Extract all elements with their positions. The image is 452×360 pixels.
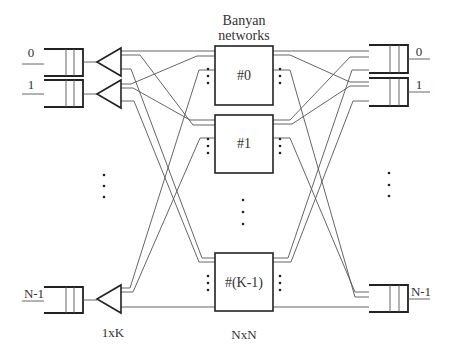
input-ellipsis xyxy=(103,174,106,199)
output-queue-n-1: N-1 xyxy=(369,284,431,312)
output-label-n-1: N-1 xyxy=(411,284,431,299)
network-label-k-1: #(K-1) xyxy=(225,275,263,291)
network-size-label: NxN xyxy=(231,327,257,342)
splitter-icon-0 xyxy=(97,48,121,76)
input-queue-n-1: N-1 xyxy=(22,286,97,313)
input-queue-1: 1 xyxy=(22,77,97,107)
title-line-2: networks xyxy=(218,28,269,43)
output-label-0: 0 xyxy=(416,44,423,59)
network-ellipsis xyxy=(242,199,245,226)
network-label-1: #1 xyxy=(237,136,251,151)
splitter-icon-1 xyxy=(97,80,121,108)
input-label-1: 1 xyxy=(28,77,35,92)
banyan-network-1: #1 xyxy=(207,115,282,173)
splitter-label: 1xK xyxy=(102,325,125,340)
banyan-network-k-1: #(K-1) xyxy=(207,253,282,311)
output-label-1: 1 xyxy=(416,77,423,92)
output-ellipsis xyxy=(388,172,391,198)
splitter-icon-n-1 xyxy=(97,285,121,313)
network-label-0: #0 xyxy=(237,68,251,83)
input-queue-0: 0 xyxy=(22,45,97,76)
title-line-1: Banyan xyxy=(223,13,266,28)
input-label-n-1: N-1 xyxy=(24,286,44,301)
banyan-network-0: #0 xyxy=(207,46,282,105)
output-queue-1: 1 xyxy=(369,77,430,106)
input-label-0: 0 xyxy=(28,45,35,60)
banyan-switch-diagram: Banyan networks 0 1 xyxy=(0,0,452,360)
output-queue-0: 0 xyxy=(369,44,430,73)
